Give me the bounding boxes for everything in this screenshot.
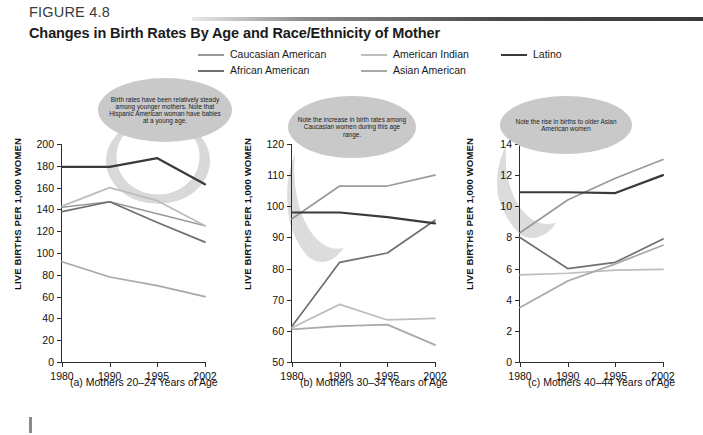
callout-a: Birth rates have been relatively steady … — [98, 78, 232, 142]
plot-a-y-tick-label: 160 — [36, 182, 54, 194]
plot-b-series-latino — [292, 213, 435, 224]
chart-c-plot-area: 024681012141980199019952002 — [520, 144, 663, 362]
plot-c-x-tick — [568, 362, 569, 367]
plot-a-y-tick-label: 20 — [42, 334, 54, 346]
plot-c-y-tick-label: 0 — [506, 356, 512, 368]
plot-a-y-tick-label: 0 — [48, 356, 54, 368]
plot-b-y-tick-label: 70 — [272, 294, 284, 306]
plot-a-x-tick — [110, 362, 111, 367]
legend-label-asian-american: Asian American — [393, 64, 466, 76]
plot-c-series-latino — [520, 175, 663, 193]
plot-a-x-tick — [205, 362, 206, 367]
chart-b-ylabel: LIVE BIRTHS PER 1,000 WOMEN — [242, 138, 253, 290]
chart-a-plot-area: 0204060801001201401601802001980199019952… — [62, 144, 205, 362]
plot-b-series-american-indian — [292, 304, 435, 327]
legend-item-caucasian-american: Caucasian American — [198, 48, 326, 60]
chart-a-ylabel: LIVE BIRTHS PER 1,000 WOMEN — [12, 138, 23, 290]
legend-label-american-indian: American Indian — [393, 48, 469, 60]
callout-b: Note the increase in birth rates among C… — [288, 96, 416, 158]
plot-c-y-tick-label: 8 — [506, 231, 512, 243]
plot-a-y-tick-label: 200 — [36, 138, 54, 150]
plot-c-y-tick-label: 10 — [500, 200, 512, 212]
plot-a-series-asian-american — [62, 262, 205, 297]
plot-a-x-tick — [62, 362, 63, 367]
plot-c-y-tick-label: 12 — [500, 169, 512, 181]
plot-a-y-tick-label: 120 — [36, 225, 54, 237]
callout-c: Note the rise in births to older Asian A… — [500, 96, 632, 154]
legend-swatch-latino — [501, 54, 527, 56]
legend-label-caucasian-american: Caucasian American — [230, 48, 326, 60]
figure-title: Changes in Birth Rates By Age and Race/E… — [29, 25, 440, 41]
plot-a-y-tick-label: 140 — [36, 203, 54, 215]
plot-b-y-tick-label: 100 — [266, 200, 284, 212]
plot-b-x-tick — [292, 362, 293, 367]
legend: Caucasian American African American Amer… — [198, 48, 618, 80]
plot-b-x-axis — [291, 362, 436, 363]
plot-c-y-tick-label: 4 — [506, 294, 512, 306]
plot-a-x-axis — [61, 362, 206, 363]
legend-swatch-african-american — [198, 70, 224, 72]
plot-b-y-tick-label: 90 — [272, 231, 284, 243]
chart-c-caption: (c) Mothers 40–44 Years of Age — [528, 376, 675, 388]
plot-b-series-layer — [292, 144, 435, 362]
legend-swatch-caucasian-american — [198, 54, 224, 56]
plot-a-y-tick-label: 180 — [36, 160, 54, 172]
plot-c-y-tick-label: 2 — [506, 325, 512, 337]
plot-c-x-tick — [663, 362, 664, 367]
plot-b-y-tick-label: 110 — [267, 169, 284, 181]
figure-label: FIGURE 4.8 — [29, 4, 110, 20]
plot-a-x-tick — [157, 362, 158, 367]
plot-c-series-layer — [520, 144, 663, 362]
plot-b-y-tick-label: 120 — [266, 138, 284, 150]
plot-c-y-tick-label: 6 — [506, 263, 512, 275]
chart-b-plot-area: 50607080901001101201980199019952002 — [292, 144, 435, 362]
plot-a-y-tick-label: 60 — [42, 291, 54, 303]
plot-c-x-tick — [615, 362, 616, 367]
plot-b-series-asian-american — [292, 325, 435, 345]
plot-a-y-tick-label: 40 — [42, 312, 54, 324]
plot-a-y-tick-label: 100 — [36, 247, 54, 259]
legend-swatch-asian-american — [361, 70, 387, 72]
plot-c-series-caucasian-american — [520, 160, 663, 233]
legend-label-african-american: African American — [230, 64, 309, 76]
plot-b-x-tick — [340, 362, 341, 367]
plot-b-y-tick-label: 60 — [272, 325, 284, 337]
plot-a-series-latino — [62, 158, 205, 184]
legend-item-asian-american: Asian American — [361, 64, 466, 76]
plot-b-series-african-american — [292, 220, 435, 326]
page-bottom-margin — [0, 421, 703, 435]
legend-item-american-indian: American Indian — [361, 48, 469, 60]
page-left-marker — [29, 417, 32, 433]
plot-b-y-tick-label: 80 — [272, 263, 284, 275]
plot-c-x-tick — [520, 362, 521, 367]
chart-b-caption: (b) Mothers 30–34 Years of Age — [300, 376, 448, 388]
plot-b-y-tick-label: 50 — [272, 356, 284, 368]
legend-swatch-american-indian — [361, 54, 387, 56]
plot-c-x-axis — [519, 362, 664, 363]
plot-a-series-layer — [62, 144, 205, 362]
header-rule — [192, 17, 703, 21]
chart-a-caption: (a) Mothers 20–24 Years of Age — [70, 376, 218, 388]
plot-b-x-tick — [435, 362, 436, 367]
legend-item-african-american: African American — [198, 64, 309, 76]
plot-c-series-asian-american — [520, 245, 663, 307]
legend-item-latino: Latino — [501, 48, 562, 60]
chart-c-ylabel: LIVE BIRTHS PER 1,000 WOMEN — [464, 138, 475, 290]
legend-label-latino: Latino — [533, 48, 562, 60]
plot-b-x-tick — [387, 362, 388, 367]
plot-a-y-tick-label: 80 — [42, 269, 54, 281]
